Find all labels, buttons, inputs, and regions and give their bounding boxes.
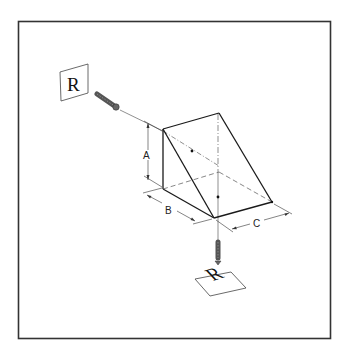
figure-frame	[19, 22, 331, 339]
beam-point-bottom	[217, 196, 220, 199]
prism-diagram: R A	[0, 0, 348, 352]
beam-path	[120, 110, 219, 240]
input-laser	[97, 94, 119, 110]
input-image-letter: R	[67, 74, 80, 95]
prism-corner	[271, 201, 273, 203]
output-laser	[215, 242, 221, 265]
laser-aperture	[113, 104, 119, 110]
prism	[163, 113, 272, 218]
dimension-a-label: A	[143, 150, 150, 161]
output-image-card: R	[195, 263, 246, 296]
beam-point-hypotenuse	[191, 150, 194, 153]
dimension-b-label: B	[165, 205, 172, 216]
dimension-c-label: C	[253, 218, 260, 229]
dimension-b	[143, 188, 212, 224]
laser-tip	[215, 261, 221, 265]
input-image-card: R	[60, 64, 88, 101]
laser-texture	[97, 94, 113, 105]
